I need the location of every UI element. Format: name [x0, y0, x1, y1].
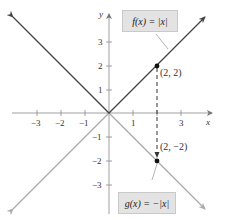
- point-2-2: [155, 64, 160, 69]
- y-tick-label: 2: [98, 62, 103, 71]
- point-label-bottom: (2, −2): [160, 142, 187, 152]
- x-tick-label: −3: [31, 119, 41, 128]
- x-axis-label: x: [206, 118, 210, 127]
- y-tick-label: 1: [98, 86, 103, 95]
- plot-area: [0, 0, 226, 221]
- f-function-label: f(x) = |x|: [122, 10, 178, 32]
- y-tick-label: −3: [92, 181, 102, 190]
- f-function-text: f(x) = |x|: [132, 16, 168, 27]
- g-function-label: g(x) = −|x|: [118, 192, 176, 214]
- point-2-neg2: [155, 159, 160, 164]
- x-tick-label: −2: [55, 119, 65, 128]
- point-label-top: (2, 2): [160, 68, 182, 78]
- y-tick-label: −2: [92, 157, 102, 166]
- g-callout-pointer: [152, 164, 157, 180]
- y-tick-label: 3: [98, 38, 103, 47]
- arrowhead-icon: [155, 152, 160, 158]
- y-tick-label: −1: [92, 133, 102, 142]
- y-axis-label: y: [99, 10, 103, 19]
- x-tick-label: −1: [79, 119, 89, 128]
- x-tick-label: 3: [179, 119, 184, 128]
- x-tick-label: 1: [131, 119, 136, 128]
- f-callout-pointer: [156, 34, 168, 49]
- g-function-text: g(x) = −|x|: [125, 198, 170, 209]
